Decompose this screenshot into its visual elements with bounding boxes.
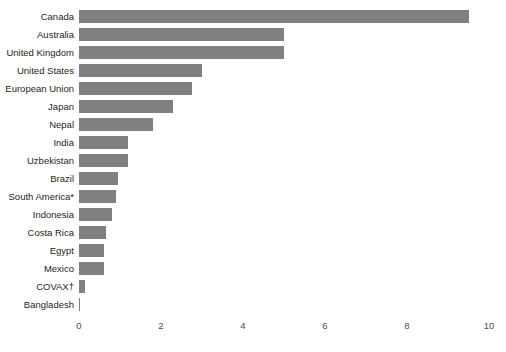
bar[interactable] [79,244,104,257]
bar[interactable] [79,208,112,221]
bar[interactable] [79,172,118,185]
bar[interactable] [79,154,128,167]
bar-row [79,224,489,242]
category-label: Canada [0,8,74,26]
bar-row [79,170,489,188]
x-tick-label: 2 [158,320,163,332]
bar-row [79,260,489,278]
category-label: COVAX† [0,278,74,296]
bar-row [79,296,489,314]
bar[interactable] [79,64,202,77]
bar[interactable] [79,136,128,149]
x-axis: 0246810 [79,320,489,340]
bar-row [79,152,489,170]
category-label: Uzbekistan [0,152,74,170]
category-label: South America* [0,188,74,206]
bar[interactable] [79,46,284,59]
bar[interactable] [79,280,85,293]
x-tick-label: 4 [240,320,245,332]
category-label: Bangladesh [0,296,74,314]
bar-row [79,116,489,134]
category-label: United Kingdom [0,44,74,62]
bar-row [79,278,489,296]
bar[interactable] [79,298,80,311]
x-tick-label: 10 [484,320,495,332]
bar-row [79,188,489,206]
category-label: Australia [0,26,74,44]
x-tick-label: 8 [404,320,409,332]
plot-area [79,8,489,312]
bar-row [79,206,489,224]
bar-row [79,44,489,62]
category-label: Mexico [0,260,74,278]
bar[interactable] [79,28,284,41]
category-label: United States [0,62,74,80]
category-label: Brazil [0,170,74,188]
bar[interactable] [79,262,104,275]
category-label: Nepal [0,116,74,134]
bar[interactable] [79,118,153,131]
bar-row [79,80,489,98]
bar[interactable] [79,226,106,239]
bar-row [79,98,489,116]
bar[interactable] [79,100,173,113]
category-label: Japan [0,98,74,116]
bar-row [79,62,489,80]
category-axis: CanadaAustraliaUnited KingdomUnited Stat… [0,8,74,312]
category-label: European Union [0,80,74,98]
bar-chart: CanadaAustraliaUnited KingdomUnited Stat… [0,0,506,352]
category-label: Indonesia [0,206,74,224]
category-label: India [0,134,74,152]
x-tick-label: 6 [322,320,327,332]
bar-row [79,134,489,152]
bar-row [79,242,489,260]
bar-row [79,26,489,44]
bar-row [79,8,489,26]
bar[interactable] [79,10,469,23]
category-label: Egypt [0,242,74,260]
bar[interactable] [79,190,116,203]
bar[interactable] [79,82,192,95]
x-tick-label: 0 [76,320,81,332]
category-label: Costa Rica [0,224,74,242]
